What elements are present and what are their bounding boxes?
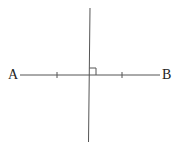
diagram-canvas — [0, 0, 178, 149]
right-angle-marker — [90, 68, 97, 75]
point-label-b: B — [162, 68, 171, 82]
point-label-a: A — [8, 68, 18, 82]
